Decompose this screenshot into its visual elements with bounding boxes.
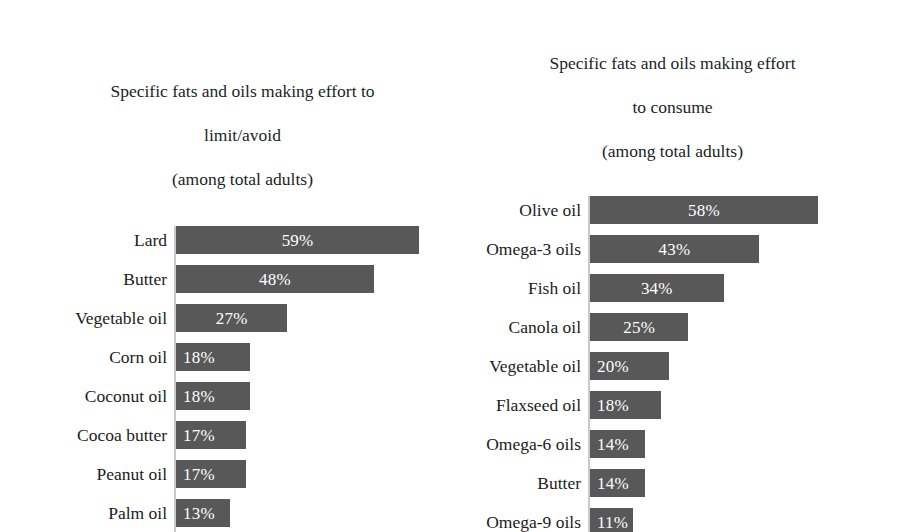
left-chart-title-line-1: Specific fats and oils making effort to xyxy=(30,80,455,102)
left-chart-plot: Lard59%Butter48%Vegetable oil27%Corn oil… xyxy=(176,226,455,532)
bar-value-label: 25% xyxy=(623,319,655,336)
bar: 17% xyxy=(176,460,246,488)
category-label: Canola oil xyxy=(509,318,590,337)
bar-row: Butter48% xyxy=(176,265,374,293)
bar: 13% xyxy=(176,499,230,527)
bar-value-label: 17% xyxy=(183,466,215,483)
category-label: Olive oil xyxy=(519,201,590,220)
bar-value-label: 18% xyxy=(183,349,215,366)
left-chart-title: Specific fats and oils making effort to … xyxy=(0,58,455,212)
category-label: Corn oil xyxy=(109,348,176,367)
bar: 14% xyxy=(590,430,645,458)
left-chart-panel: Specific fats and oils making effort to … xyxy=(0,58,455,532)
bar-row: Coconut oil18% xyxy=(176,382,250,410)
bar-value-label: 34% xyxy=(641,280,673,297)
category-label: Fish oil xyxy=(528,279,590,298)
category-label: Butter xyxy=(123,270,176,289)
right-chart-title-line-3: (among total adults) xyxy=(448,140,897,162)
chart-page: Specific fats and oils making effort to … xyxy=(0,0,897,532)
category-label: Peanut oil xyxy=(97,465,176,484)
bar-value-label: 48% xyxy=(259,271,291,288)
category-label: Lard xyxy=(134,231,176,250)
bar: 27% xyxy=(176,304,287,332)
bar-value-label: 20% xyxy=(597,358,629,375)
category-label: Omega-9 oils xyxy=(486,513,590,532)
right-chart-title-line-2: to consume xyxy=(448,96,897,118)
category-label: Butter xyxy=(537,474,590,493)
bar: 43% xyxy=(590,235,759,263)
left-chart-title-line-2: limit/avoid xyxy=(30,124,455,146)
bar-value-label: 17% xyxy=(183,427,215,444)
bar: 18% xyxy=(176,343,250,371)
category-label: Coconut oil xyxy=(85,387,176,406)
category-label: Vegetable oil xyxy=(75,309,176,328)
category-label: Omega-6 oils xyxy=(486,435,590,454)
bar: 25% xyxy=(590,313,688,341)
bar: 20% xyxy=(590,352,669,380)
category-label: Palm oil xyxy=(108,504,176,523)
right-chart-title: Specific fats and oils making effort to … xyxy=(430,30,897,184)
bar-value-label: 18% xyxy=(597,397,629,414)
category-label: Cocoa butter xyxy=(77,426,176,445)
bar-value-label: 11% xyxy=(597,514,628,531)
bar: 59% xyxy=(176,226,419,254)
bar-row: Omega-3 oils43% xyxy=(590,235,759,263)
bar-row: Peanut oil17% xyxy=(176,460,246,488)
bar-row: Omega-6 oils14% xyxy=(590,430,645,458)
bar-row: Vegetable oil20% xyxy=(590,352,669,380)
bar-value-label: 27% xyxy=(216,310,248,327)
bar-row: Butter14% xyxy=(590,469,645,497)
category-label: Omega-3 oils xyxy=(486,240,590,259)
bar-row: Omega-9 oils11% xyxy=(590,508,633,532)
bar-row: Flaxseed oil18% xyxy=(590,391,661,419)
bar: 48% xyxy=(176,265,374,293)
bar-value-label: 59% xyxy=(282,232,314,249)
left-chart-title-line-3: (among total adults) xyxy=(30,168,455,190)
bar-value-label: 58% xyxy=(688,202,720,219)
bar: 17% xyxy=(176,421,246,449)
bar: 58% xyxy=(590,196,818,224)
bar-value-label: 14% xyxy=(597,475,629,492)
bar-row: Corn oil18% xyxy=(176,343,250,371)
bar-row: Canola oil25% xyxy=(590,313,688,341)
bar-value-label: 13% xyxy=(183,505,215,522)
bar: 34% xyxy=(590,274,724,302)
right-chart-panel: Specific fats and oils making effort to … xyxy=(430,30,897,532)
bar-row: Olive oil58% xyxy=(590,196,818,224)
bar-row: Vegetable oil27% xyxy=(176,304,287,332)
bar: 18% xyxy=(590,391,661,419)
category-label: Vegetable oil xyxy=(489,357,590,376)
bar-row: Lard59% xyxy=(176,226,419,254)
right-chart-plot: Olive oil58%Omega-3 oils43%Fish oil34%Ca… xyxy=(590,196,897,532)
bar-row: Fish oil34% xyxy=(590,274,724,302)
bar: 11% xyxy=(590,508,633,532)
bar-row: Cocoa butter17% xyxy=(176,421,246,449)
right-chart-title-line-1: Specific fats and oils making effort xyxy=(448,52,897,74)
bar-value-label: 14% xyxy=(597,436,629,453)
bar-row: Palm oil13% xyxy=(176,499,230,527)
bar: 14% xyxy=(590,469,645,497)
bar: 18% xyxy=(176,382,250,410)
bar-value-label: 18% xyxy=(183,388,215,405)
category-label: Flaxseed oil xyxy=(496,396,590,415)
bar-value-label: 43% xyxy=(659,241,691,258)
